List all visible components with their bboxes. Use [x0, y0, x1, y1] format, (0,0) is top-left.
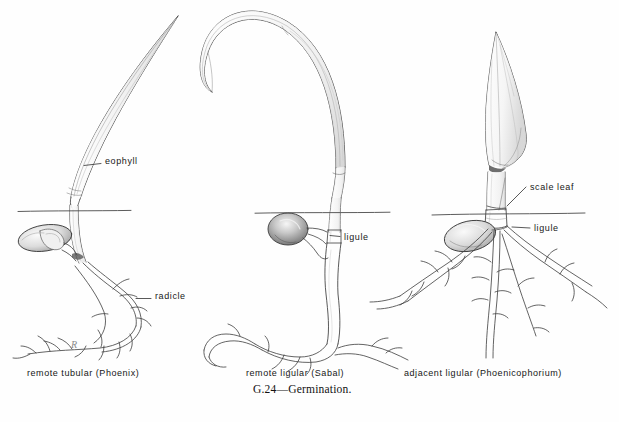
seed-sabal [268, 213, 328, 259]
ground-line-phoenicophorium [432, 213, 585, 215]
figure-caption: G.24—Germination. [253, 384, 352, 396]
seedling-phoenicophorium [370, 32, 607, 358]
label-radicle: radicle [155, 292, 186, 301]
panel-caption-phoenix: remote tubular (Phoenix) [27, 369, 139, 378]
leader-ligule-sabal [330, 236, 340, 237]
seed-phoenix [16, 221, 77, 261]
leader-ligule-phoenicophorium [512, 227, 530, 228]
ground-line-sabal [255, 212, 390, 213]
label-ligule-sabal: ligule [344, 233, 369, 242]
panel-caption-phoenicophorium: adjacent ligular (Phoenicophorium) [404, 369, 562, 378]
leader-scale-leaf [507, 187, 526, 206]
eophyll-leaf-sabal [200, 11, 345, 168]
stem-phoenix [70, 205, 86, 263]
panel-caption-sabal: remote ligular (Sabal) [246, 369, 344, 378]
eophyll-leaf-phoenicophorium [485, 32, 526, 173]
stem-sabal [325, 167, 345, 344]
root-system-phoenicophorium [370, 226, 607, 358]
seedling-illustration-plate [0, 0, 619, 422]
germination-figure: eophyll radicle ligule scale leaf ligule… [0, 0, 619, 422]
seedling-sabal [200, 11, 408, 374]
ground-lines [18, 210, 585, 215]
label-eophyll: eophyll [105, 157, 138, 166]
root-system-phoenix [13, 262, 151, 360]
artist-signature-mark: R [71, 339, 77, 350]
eophyll-leaf-phoenix [67, 16, 178, 208]
label-scale-leaf: scale leaf [530, 183, 574, 192]
label-ligule-phoenicophorium: ligule [534, 224, 559, 233]
stem-phoenicophorium [485, 172, 507, 228]
root-system-sabal [204, 324, 408, 374]
seedling-phoenix [13, 16, 178, 360]
